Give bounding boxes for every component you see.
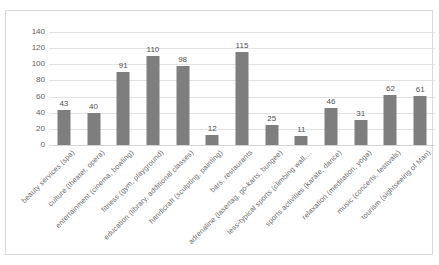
bar: [146, 56, 159, 145]
bar-group: 31: [346, 32, 376, 145]
x-axis-category-label-text: beauty services (spa): [20, 149, 76, 205]
x-axis-category-label: culture (theater, opera): [46, 148, 106, 208]
y-axis-tick-label: 100: [11, 60, 45, 68]
bar: [414, 96, 427, 145]
bar-value-label: 31: [356, 110, 365, 118]
y-axis-tick-label: 60: [11, 93, 45, 101]
bar: [57, 110, 70, 145]
x-axis-category-label: beauty services (spa): [19, 148, 75, 204]
bar-group: 98: [168, 32, 198, 145]
chart-frame: 020406080100120140 434091110981211525114…: [5, 10, 433, 255]
bar-group: 43: [49, 32, 79, 145]
bar-value-label: 40: [89, 103, 98, 111]
bar-group: 12: [197, 32, 227, 145]
x-axis: beauty services (spa)culture (theater, o…: [49, 148, 435, 265]
bar-group: 25: [257, 32, 287, 145]
bar-value-label: 62: [386, 85, 395, 93]
y-axis-tick-label: 20: [11, 125, 45, 133]
bar-group: 91: [108, 32, 138, 145]
bar-group: 11: [287, 32, 317, 145]
bar-value-label: 12: [208, 125, 217, 133]
bar-value-label: 25: [267, 115, 276, 123]
bar-series: 4340911109812115251146316261: [49, 32, 435, 145]
y-axis-tick-label: 0: [11, 141, 45, 149]
bar-value-label: 61: [416, 86, 425, 94]
bar-value-label: 43: [59, 100, 68, 108]
bar-value-label: 11: [297, 126, 305, 134]
bar: [206, 135, 219, 145]
bar-group: 115: [227, 32, 257, 145]
bar: [265, 125, 278, 145]
bar-group: 46: [316, 32, 346, 145]
bar: [117, 72, 130, 145]
bar-group: 61: [405, 32, 435, 145]
bar: [295, 136, 308, 145]
bar: [176, 66, 189, 145]
y-axis-tick-label: 40: [11, 109, 45, 117]
gridline: [49, 145, 435, 146]
bar-group: 62: [376, 32, 406, 145]
bar: [384, 95, 397, 145]
bar-value-label: 110: [147, 46, 160, 54]
y-axis-tick-label: 120: [11, 44, 45, 52]
bar: [325, 108, 338, 145]
bar-value-label: 91: [119, 62, 128, 70]
bar: [235, 52, 248, 145]
bar-value-label: 115: [236, 42, 249, 50]
bar-value-label: 98: [178, 56, 187, 64]
y-axis: 020406080100120140: [11, 32, 45, 145]
bar-group: 40: [79, 32, 109, 145]
bar: [354, 120, 367, 145]
bar-value-label: 46: [327, 98, 336, 106]
y-axis-tick-label: 140: [11, 28, 45, 36]
bar: [87, 113, 100, 145]
y-axis-tick-label: 80: [11, 76, 45, 84]
bar-group: 110: [138, 32, 168, 145]
